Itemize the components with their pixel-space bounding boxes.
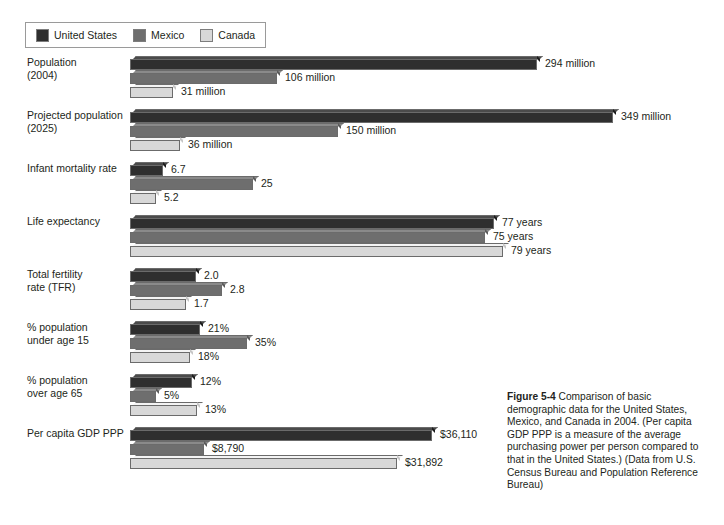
chart-group-label-line: rate (TFR) xyxy=(27,281,127,294)
chart-bar[interactable] xyxy=(130,377,192,388)
chart-bar-row: 1.7 xyxy=(130,296,724,310)
chart-bar-row: 77 years xyxy=(130,215,724,229)
chart-group: Life expectancy77 years75 years79 years xyxy=(0,215,724,257)
chart-group-label-line: (2025) xyxy=(27,122,127,135)
chart-bar-value-label: 5.2 xyxy=(164,191,179,203)
chart-bar-value-label: $36,110 xyxy=(440,428,477,440)
chart-bar[interactable] xyxy=(130,246,503,257)
chart-group-bars: 349 million150 million36 million xyxy=(130,109,724,151)
legend-label: Canada xyxy=(218,29,255,41)
chart-bar[interactable] xyxy=(130,179,253,190)
chart-bar-front-face xyxy=(130,73,277,84)
chart-bar-value-label: 25 xyxy=(261,177,273,189)
chart-bar[interactable] xyxy=(130,444,204,455)
chart-bar-front-face xyxy=(130,391,156,402)
chart-group-label-line: % population xyxy=(27,321,127,334)
chart-bar[interactable] xyxy=(130,391,156,402)
chart-group-label: Projected population(2025) xyxy=(27,109,127,134)
chart-bar-front-face xyxy=(130,218,494,229)
chart-bar[interactable] xyxy=(130,165,163,176)
chart-bar-value-label: 77 years xyxy=(502,216,542,228)
chart-bar-row: 79 years xyxy=(130,243,724,257)
chart-bar[interactable] xyxy=(130,430,432,441)
chart-bar[interactable] xyxy=(130,324,200,335)
chart-bar-front-face xyxy=(130,165,163,176)
chart-bar-front-face xyxy=(130,405,197,416)
chart-bar[interactable] xyxy=(130,193,156,204)
chart-bar-value-label: 12% xyxy=(200,375,221,387)
chart-group: Infant mortality rate6.7255.2 xyxy=(0,162,724,204)
chart-bar-value-label: 294 million xyxy=(545,57,595,69)
chart-bar-value-label: 150 million xyxy=(346,124,396,136)
chart-bar-value-label: 13% xyxy=(205,403,226,415)
chart-bar-row: 36 million xyxy=(130,137,724,151)
chart-bar[interactable] xyxy=(130,352,190,363)
chart-bar[interactable] xyxy=(130,73,277,84)
chart-group-label-line: (2004) xyxy=(27,69,127,82)
legend-entry: United States xyxy=(36,29,117,42)
chart-bar-front-face xyxy=(130,324,200,335)
chart-group-label-line: Total fertility xyxy=(27,268,127,281)
chart-bar-row: 18% xyxy=(130,349,724,363)
chart-bar[interactable] xyxy=(130,405,197,416)
chart-bar-value-label: 35% xyxy=(255,336,276,348)
chart-bar-front-face xyxy=(130,352,190,363)
chart-group-label: Per capita GDP PPP xyxy=(27,427,127,440)
chart-group-label: Population(2004) xyxy=(27,56,127,81)
chart-group-label-line: Population xyxy=(27,56,127,69)
chart-bar[interactable] xyxy=(130,87,173,98)
chart-group: % populationunder age 1521%35%18% xyxy=(0,321,724,363)
chart-bar-row: 21% xyxy=(130,321,724,335)
chart-bar-front-face xyxy=(130,271,196,282)
chart-bar-row: 2.8 xyxy=(130,282,724,296)
chart-group-label: Infant mortality rate xyxy=(27,162,127,175)
chart-bar[interactable] xyxy=(130,218,494,229)
chart-group-bars: 21%35%18% xyxy=(130,321,724,363)
chart-bar-front-face xyxy=(130,87,173,98)
figure-caption: Figure 5-4 Comparison of basic demograph… xyxy=(507,391,707,492)
chart-group-label: % populationover age 65 xyxy=(27,374,127,399)
chart-group-label-line: % population xyxy=(27,374,127,387)
chart-bar[interactable] xyxy=(130,271,196,282)
chart-bar[interactable] xyxy=(130,126,338,137)
chart-bar[interactable] xyxy=(130,285,222,296)
chart-bar-front-face xyxy=(130,338,247,349)
chart-bar[interactable] xyxy=(130,232,485,243)
chart-bar[interactable] xyxy=(130,458,397,469)
chart-bar-front-face xyxy=(130,246,503,257)
chart-bar-row: 150 million xyxy=(130,123,724,137)
chart-bar-front-face xyxy=(130,179,253,190)
chart-bar-value-label: 18% xyxy=(198,350,219,362)
chart-bar-front-face xyxy=(130,193,156,204)
chart-bar-front-face xyxy=(130,299,186,310)
chart-bar-front-face xyxy=(130,232,485,243)
chart-group: Projected population(2025)349 million150… xyxy=(0,109,724,151)
chart-bar[interactable] xyxy=(130,140,180,151)
chart-bar-row: 31 million xyxy=(130,84,724,98)
chart-bar-row: 5.2 xyxy=(130,190,724,204)
chart-group-bars: 6.7255.2 xyxy=(130,162,724,204)
legend-swatch-icon xyxy=(200,29,213,42)
chart-bar-value-label: 2.8 xyxy=(230,283,245,295)
chart-bar-value-label: 6.7 xyxy=(171,163,186,175)
chart-bar-row: 349 million xyxy=(130,109,724,123)
chart-group-label-line: Infant mortality rate xyxy=(27,162,127,175)
chart-bar-value-label: 36 million xyxy=(188,138,232,150)
chart-group-bars: 77 years75 years79 years xyxy=(130,215,724,257)
chart-bar[interactable] xyxy=(130,338,247,349)
chart-bar-front-face xyxy=(130,458,397,469)
chart-bar[interactable] xyxy=(130,299,186,310)
chart-bar[interactable] xyxy=(130,59,537,70)
chart-bar-front-face xyxy=(130,444,204,455)
chart-group-label: Total fertilityrate (TFR) xyxy=(27,268,127,293)
chart-group-label-line: Life expectancy xyxy=(27,215,127,228)
chart-bar-front-face xyxy=(130,126,338,137)
chart-group: Population(2004)294 million106 million31… xyxy=(0,56,724,98)
chart-group-label-line: under age 15 xyxy=(27,334,127,347)
chart-bar-value-label: $8,790 xyxy=(212,442,244,454)
chart-bar-front-face xyxy=(130,140,180,151)
chart-bar-row: 12% xyxy=(130,374,724,388)
figure-caption-text: Comparison of basic demographic data for… xyxy=(507,391,698,490)
chart-bar[interactable] xyxy=(130,112,613,123)
chart-group-bars: 294 million106 million31 million xyxy=(130,56,724,98)
